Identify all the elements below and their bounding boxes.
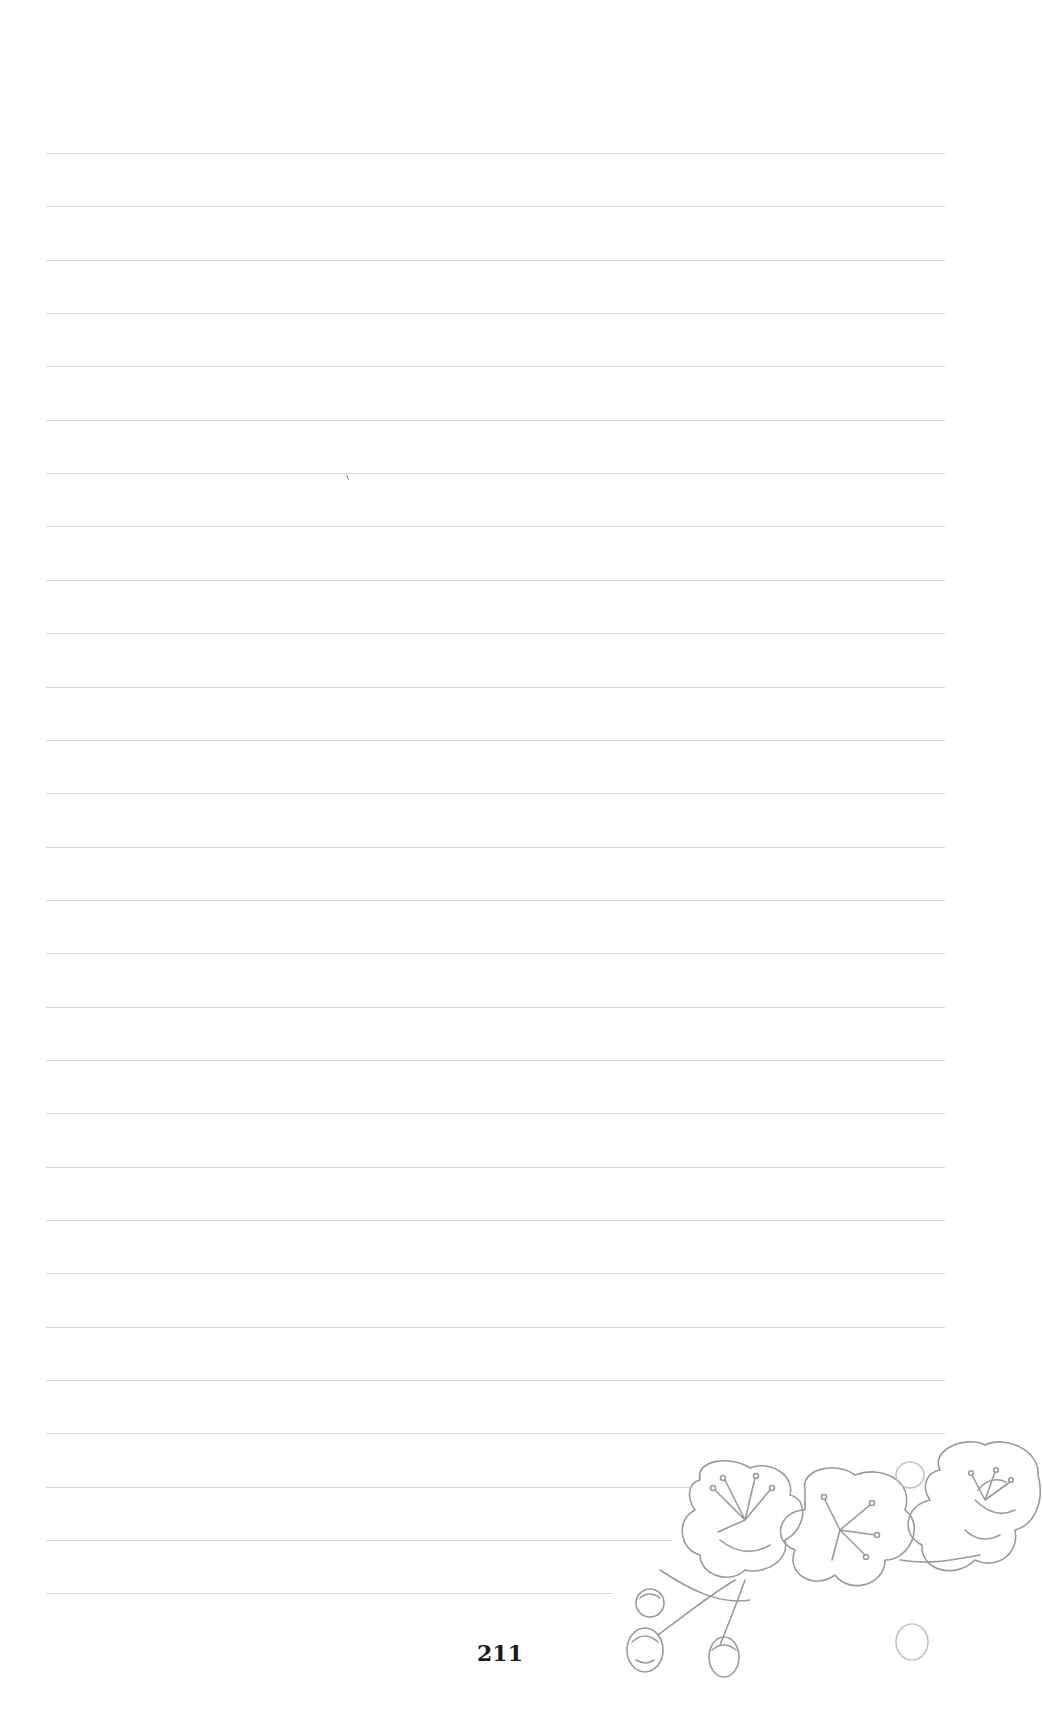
ruled-line — [46, 153, 945, 154]
ruled-line — [46, 313, 945, 314]
ruled-line — [46, 740, 945, 741]
notebook-page: 211 — [0, 0, 1042, 1719]
ruled-line — [46, 580, 945, 581]
ruled-line — [46, 206, 945, 207]
ruled-line — [46, 1540, 672, 1541]
ruled-line — [46, 633, 945, 634]
ruled-line — [46, 366, 945, 367]
ruled-line — [46, 1167, 945, 1168]
ruled-line — [46, 1220, 945, 1221]
ruled-line — [46, 473, 945, 474]
ruled-line — [46, 420, 945, 421]
ruled-line — [46, 1380, 945, 1381]
ruled-line — [46, 793, 945, 794]
ruled-line — [46, 687, 945, 688]
ruled-line — [46, 1007, 945, 1008]
ruled-line — [46, 526, 945, 527]
ruled-line — [46, 953, 945, 954]
ruled-line — [46, 1327, 945, 1328]
ruled-line — [46, 1593, 613, 1594]
ruled-line — [46, 1487, 690, 1488]
ruled-line — [46, 900, 945, 901]
ruled-line — [46, 1113, 945, 1114]
cherry-blossom-icon — [600, 1420, 1042, 1719]
ruled-line — [46, 1060, 945, 1061]
ruled-line — [46, 847, 945, 848]
ruled-line — [46, 260, 945, 261]
page-number: 211 — [470, 1640, 530, 1666]
ruled-line — [46, 1273, 945, 1274]
